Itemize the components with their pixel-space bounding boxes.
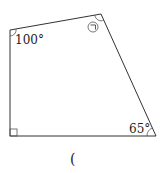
answer-blank[interactable]: ( (70, 152, 75, 166)
quadrilateral-diagram (0, 0, 166, 173)
angle-label-65: 65° (129, 123, 150, 135)
angle-label-100: 100° (15, 34, 44, 46)
right-angle-marker (10, 129, 17, 136)
circled-label-glyph (91, 25, 96, 30)
circled-label-circle (88, 22, 98, 32)
